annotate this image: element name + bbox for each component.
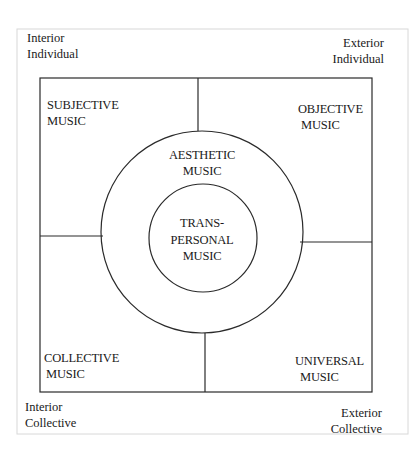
circle-label-transpersonal: TRANS- PERSONAL MUSIC: [152, 215, 252, 265]
quadrant-label-objective: OBJECTIVE MUSIC: [298, 101, 363, 133]
corner-label-top-right: Exterior Individual: [333, 35, 384, 67]
quadrant-label-universal: UNIVERSAL MUSIC: [295, 353, 364, 385]
corner-label-top-left: Interior Individual: [27, 30, 78, 62]
corner-label-bottom-left: Interior Collective: [25, 399, 76, 431]
circle-label-aesthetic: AESTHETIC MUSIC: [152, 147, 252, 179]
corner-label-bottom-right: Exterior Collective: [331, 405, 382, 437]
quadrant-label-collective: COLLECTIVE MUSIC: [44, 350, 119, 382]
quadrant-label-subjective: SUBJECTIVE MUSIC: [47, 97, 119, 129]
